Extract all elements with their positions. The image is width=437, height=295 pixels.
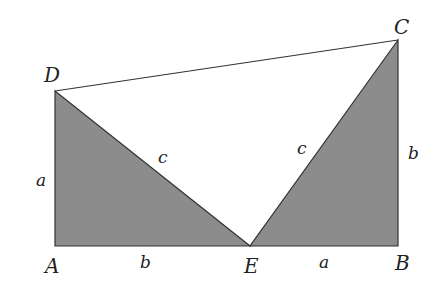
triangle-ADE bbox=[55, 91, 250, 246]
side-label-AD: a bbox=[36, 170, 46, 190]
side-label-DE: c bbox=[158, 147, 168, 167]
trapezoid-diagram: D C A E B a b c c a b bbox=[0, 0, 437, 295]
point-label-E: E bbox=[243, 254, 259, 278]
triangle-EBC bbox=[250, 40, 398, 246]
point-label-C: C bbox=[394, 15, 409, 39]
side-label-EC: c bbox=[297, 138, 307, 158]
side-label-AE: b bbox=[140, 252, 151, 272]
segment-DC bbox=[55, 40, 398, 91]
side-label-BC: b bbox=[408, 143, 419, 163]
side-label-EB: a bbox=[319, 252, 329, 272]
point-label-B: B bbox=[394, 251, 410, 275]
point-label-D: D bbox=[43, 63, 60, 87]
point-label-A: A bbox=[43, 254, 59, 278]
